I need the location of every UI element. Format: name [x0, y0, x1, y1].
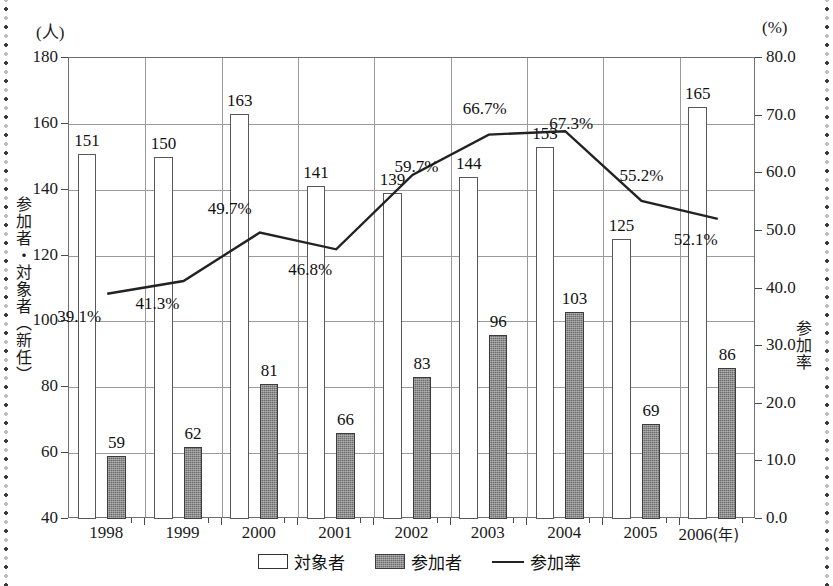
bar-参加者-2002 [413, 377, 432, 519]
bar-value-label: 150 [134, 134, 194, 154]
right-axis-tick-mark [755, 288, 762, 289]
right-axis-tick-label: 20.0 [766, 394, 796, 411]
chart-page: (人) (%) 参加者・対象者（新任） 参加率 1801601401201008… [0, 0, 833, 586]
rate-value-label-2004: 67.3% [539, 114, 603, 134]
left-axis-tick-mark [61, 255, 68, 256]
left-axis-tick-mark [61, 189, 68, 190]
left-axis-tick-mark [61, 386, 68, 387]
legend-swatch-open-square-icon [258, 554, 288, 569]
category-separator [451, 58, 452, 517]
bar-value-label: 163 [210, 91, 270, 111]
gridline [69, 124, 754, 125]
left-axis-tick-label: 60 [0, 443, 58, 460]
left-axis-tick-label: 160 [0, 114, 58, 131]
right-axis-tick-mark [755, 172, 762, 173]
bar-value-label: 86 [697, 345, 757, 365]
bar-value-label: 141 [286, 163, 346, 183]
left-axis-tick-label: 140 [0, 180, 58, 197]
legend-swatch-line-icon [492, 561, 524, 563]
legend-item-参加者[interactable]: 参加者 [375, 549, 462, 574]
right-axis-tick-label: 50.0 [766, 221, 796, 238]
right-axis-tick-mark [755, 115, 762, 116]
right-axis-tick-mark [755, 518, 762, 519]
bar-対象者-2000 [230, 114, 249, 519]
bar-value-label: 59 [87, 433, 147, 453]
right-axis-tick-label: 60.0 [766, 163, 796, 180]
rate-value-label-2000: 49.7% [198, 199, 262, 219]
bar-対象者-2005 [612, 239, 631, 519]
bar-参加者-2001 [336, 433, 355, 519]
right-axis-unit: (%) [762, 18, 787, 38]
bar-参加者-2004 [565, 312, 584, 519]
category-separator [222, 58, 223, 517]
bar-参加者-2003 [489, 335, 508, 519]
left-axis-unit: (人) [36, 18, 64, 43]
bar-value-label: 103 [545, 289, 605, 309]
page-edge-right-artifact [822, 0, 832, 586]
bar-参加者-2006 [718, 368, 737, 520]
bar-value-label: 69 [621, 401, 681, 421]
legend-item-参加率[interactable]: 参加率 [492, 549, 581, 574]
rate-value-label-2005: 55.2% [610, 166, 674, 186]
left-axis-tick-label: 120 [0, 246, 58, 263]
bar-対象者-2003 [459, 177, 478, 520]
left-axis-tick-mark [61, 57, 68, 58]
left-axis-tick-mark [61, 518, 68, 519]
rate-value-label-2006: 52.1% [664, 230, 728, 250]
bar-参加者-2000 [260, 384, 279, 519]
left-axis-tick-label: 40 [0, 509, 58, 526]
right-axis-tick-label: 70.0 [766, 106, 796, 123]
bar-参加者-1998 [107, 456, 126, 519]
right-axis-tick-mark [755, 460, 762, 461]
rate-value-label-2001: 46.8% [278, 260, 342, 280]
bar-対象者-2004 [536, 147, 555, 519]
chart-legend: 対象者参加者参加率 [258, 549, 581, 574]
left-axis-tick-label: 180 [0, 48, 58, 65]
x-axis-label-2006: 2006(年) [659, 523, 759, 545]
bar-value-label: 81 [239, 361, 299, 381]
legend-label: 参加率 [530, 549, 581, 574]
right-axis-tick-label: 80.0 [766, 48, 796, 65]
left-axis-tick-mark [61, 452, 68, 453]
left-axis-tick-label: 80 [0, 377, 58, 394]
bar-value-label: 165 [668, 84, 728, 104]
category-separator [680, 58, 681, 517]
bar-参加者-1999 [184, 447, 203, 519]
rate-value-label-2003: 66.7% [453, 99, 517, 119]
legend-swatch-filled-square-icon [375, 554, 405, 569]
rate-value-label-1999: 41.3% [126, 294, 190, 314]
bar-対象者-1999 [154, 157, 173, 519]
bar-対象者-2001 [307, 186, 326, 519]
bar-value-label: 96 [468, 312, 528, 332]
rate-value-label-1998: 39.1% [47, 307, 111, 327]
bar-対象者-2006 [688, 107, 707, 519]
category-separator [603, 58, 604, 517]
bar-参加者-2005 [642, 424, 661, 520]
rate-value-label-2002: 59.7% [385, 157, 449, 177]
left-axis-tick-mark [61, 123, 68, 124]
right-axis-tick-mark [755, 57, 762, 58]
left-axis-title: 参加者・対象者（新任） [10, 196, 34, 383]
bar-value-label: 125 [592, 216, 652, 236]
right-axis-tick-label: 10.0 [766, 451, 796, 468]
legend-label: 参加者 [411, 549, 462, 574]
right-axis-tick-label: 30.0 [766, 336, 796, 353]
right-axis-tick-mark [755, 230, 762, 231]
plot-area: 1515915062163811416613983144961531031256… [68, 57, 755, 518]
right-axis-tick-mark [755, 403, 762, 404]
right-axis-tick-label: 0.0 [766, 509, 787, 526]
bar-value-label: 151 [57, 131, 117, 151]
category-separator [374, 58, 375, 517]
category-separator [298, 58, 299, 517]
legend-item-対象者[interactable]: 対象者 [258, 549, 345, 574]
bar-value-label: 83 [392, 354, 452, 374]
right-axis-tick-label: 40.0 [766, 279, 796, 296]
legend-label: 対象者 [294, 549, 345, 574]
bar-対象者-1998 [78, 154, 97, 520]
bar-value-label: 62 [163, 424, 223, 444]
bar-value-label: 66 [316, 410, 376, 430]
